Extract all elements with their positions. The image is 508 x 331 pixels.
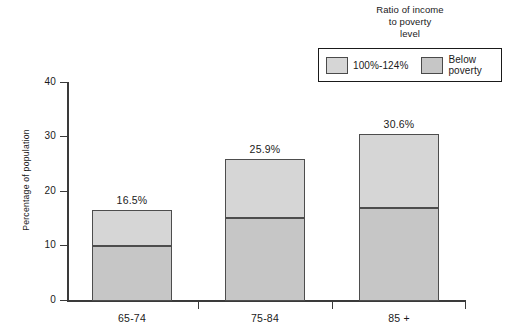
x-tick-label-65-74: 65-74 — [92, 312, 172, 324]
bar-65-74[interactable] — [92, 210, 172, 301]
legend-title-line-1: Ratio of income — [352, 4, 468, 16]
x-tick-label-85-plus: 85 + — [359, 312, 439, 324]
stacked-bar-chart: Ratio of income to poverty level 100%-12… — [0, 0, 508, 331]
legend-label-100-124: 100%-124% — [353, 60, 408, 71]
x-tick-1 — [198, 301, 199, 309]
legend-swatch-100-124 — [326, 57, 348, 74]
legend-title-line-2: to poverty — [352, 16, 468, 28]
bar-75-84[interactable] — [225, 159, 305, 301]
legend-swatch-below-poverty — [421, 57, 443, 74]
x-tick-2 — [332, 301, 333, 309]
bar-total-label-85-plus: 30.6% — [354, 118, 444, 130]
x-tick-3 — [465, 301, 466, 309]
legend-entry-100-124[interactable]: 100%-124% — [326, 57, 408, 74]
legend-items: 100%-124% Below poverty — [318, 48, 502, 82]
y-tick-10 — [60, 245, 68, 246]
bar-segment-below-poverty-65-74[interactable] — [92, 246, 172, 301]
bar-segment-100-124-75-84[interactable] — [225, 159, 305, 218]
y-tick-label-20: 20 — [22, 186, 56, 196]
bar-segment-below-poverty-75-84[interactable] — [225, 218, 305, 301]
bar-total-label-65-74: 16.5% — [87, 194, 177, 206]
legend-entry-below-poverty[interactable]: Below poverty — [421, 54, 500, 76]
y-tick-0 — [60, 300, 68, 301]
y-tick-30 — [60, 136, 68, 137]
y-tick-label-40: 40 — [22, 77, 56, 87]
y-tick-label-30: 30 — [22, 131, 56, 141]
x-tick-label-75-84: 75-84 — [225, 312, 305, 324]
y-tick-label-0: 0 — [22, 295, 56, 305]
y-tick-40 — [60, 82, 68, 83]
bar-segment-100-124-85-plus[interactable] — [359, 134, 439, 208]
bar-85-plus[interactable] — [359, 134, 439, 301]
legend-label-below-poverty: Below poverty — [448, 54, 500, 76]
bar-segment-100-124-65-74[interactable] — [92, 210, 172, 246]
y-tick-20 — [60, 191, 68, 192]
y-tick-label-10: 10 — [22, 240, 56, 250]
bar-segment-below-poverty-85-plus[interactable] — [359, 208, 439, 301]
legend-title-line-3: level — [352, 28, 468, 40]
bar-total-label-75-84: 25.9% — [220, 143, 310, 155]
y-axis-title: Percentage of population — [21, 105, 31, 255]
legend-title: Ratio of income to poverty level — [352, 4, 468, 41]
